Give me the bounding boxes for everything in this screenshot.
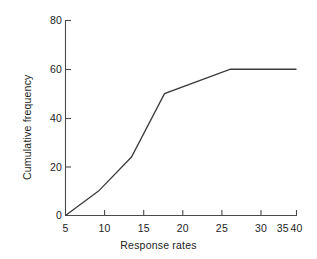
x-axis-ticks — [105, 210, 297, 216]
y-tick-label-60: 60 — [40, 63, 62, 75]
y-axis-title: Cumulative frequency — [21, 74, 33, 180]
x-tick-label-40: 40 — [285, 222, 309, 234]
x-tick-label-5: 5 — [54, 222, 78, 234]
x-tick-label-20: 20 — [171, 222, 195, 234]
cumulative-frequency-line — [66, 69, 297, 215]
cumulative-frequency-chart: 80 60 40 20 0 5 10 15 20 25 30 35 40 Res… — [0, 0, 317, 259]
x-tick-label-30: 30 — [249, 222, 273, 234]
x-tick-label-25: 25 — [210, 222, 234, 234]
x-axis-title: Response rates — [0, 239, 317, 251]
y-tick-label-20: 20 — [40, 161, 62, 173]
y-tick-label-80: 80 — [40, 14, 62, 26]
y-tick-label-0: 0 — [40, 209, 62, 221]
x-tick-label-15: 15 — [132, 222, 156, 234]
x-tick-label-10: 10 — [93, 222, 117, 234]
y-axis-ticks — [66, 21, 72, 168]
y-tick-label-40: 40 — [40, 112, 62, 124]
